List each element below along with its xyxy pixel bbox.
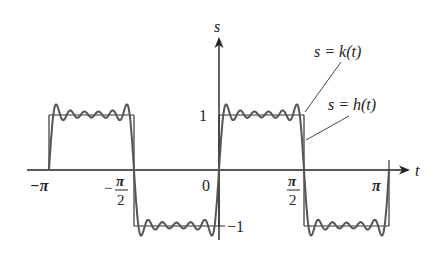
leader-h bbox=[306, 116, 349, 140]
svg-text:π: π bbox=[288, 173, 297, 189]
svg-text:2: 2 bbox=[289, 192, 297, 208]
s-axis-label: s bbox=[214, 18, 220, 35]
x-tick-neg-pi: −π bbox=[30, 177, 50, 194]
svg-text:π: π bbox=[116, 173, 125, 189]
label-h: s = h(t) bbox=[328, 96, 376, 114]
t-axis-label: t bbox=[415, 162, 420, 179]
label-k: s = k(t) bbox=[314, 43, 361, 61]
x-tick-zero: 0 bbox=[202, 177, 210, 194]
svg-text:−: − bbox=[104, 180, 112, 196]
svg-text:2: 2 bbox=[117, 192, 125, 208]
y-tick-neg1: −1 bbox=[227, 218, 244, 235]
x-tick-half-pi: π 2 bbox=[287, 173, 300, 208]
fourier-square-wave-figure: t s 1 −1 −π − π 2 0 π 2 π s = k(t) s = h… bbox=[0, 0, 447, 254]
y-tick-1: 1 bbox=[199, 107, 207, 124]
x-tick-pi: π bbox=[372, 177, 382, 194]
x-tick-neg-half-pi: − π 2 bbox=[104, 173, 128, 208]
